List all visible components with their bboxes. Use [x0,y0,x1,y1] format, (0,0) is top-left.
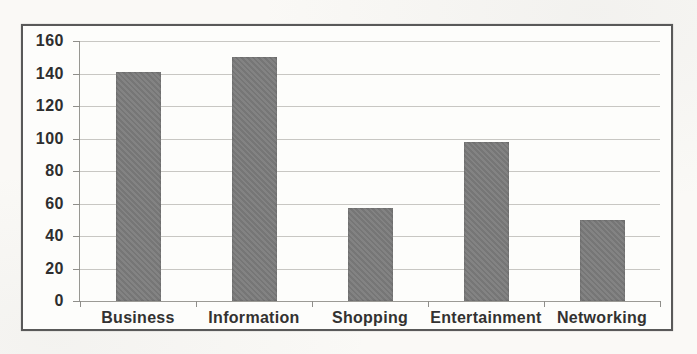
bar-business [116,72,161,301]
y-tick [73,301,80,302]
y-tick [73,106,80,107]
category-label: Shopping [312,309,428,327]
bar-entertainment [464,142,509,301]
gridline [80,74,660,75]
y-tick [73,204,80,205]
gridline [80,41,660,42]
category-label: Entertainment [428,309,544,327]
y-axis-label: 40 [24,227,64,245]
x-axis-line [79,301,660,302]
x-tick [196,301,197,307]
y-axis-label: 20 [24,260,64,278]
x-tick [544,301,545,307]
gridline [80,171,660,172]
x-tick [428,301,429,307]
bar-shopping [348,208,393,301]
y-axis-label: 140 [24,65,64,83]
x-tick [660,301,661,307]
gridline [80,106,660,107]
y-axis-label: 120 [24,97,64,115]
gridline [80,204,660,205]
x-tick [312,301,313,307]
y-tick [73,236,80,237]
y-axis-label: 160 [24,32,64,50]
y-axis-label: 0 [24,292,64,310]
bar-information [232,57,277,301]
gridline [80,139,660,140]
plot-area: 020406080100120140160 BusinessInformatio… [80,41,660,301]
x-tick [80,301,81,307]
bar-networking [580,220,625,301]
y-axis-label: 100 [24,130,64,148]
category-label: Networking [544,309,660,327]
y-tick [73,269,80,270]
scanned-page-background: 020406080100120140160 BusinessInformatio… [0,0,697,354]
category-label: Business [80,309,196,327]
category-label: Information [196,309,312,327]
y-axis-label: 60 [24,195,64,213]
y-axis-label: 80 [24,162,64,180]
y-tick [73,171,80,172]
chart-frame: 020406080100120140160 BusinessInformatio… [21,24,673,331]
y-tick [73,139,80,140]
y-tick [73,41,80,42]
y-tick [73,74,80,75]
